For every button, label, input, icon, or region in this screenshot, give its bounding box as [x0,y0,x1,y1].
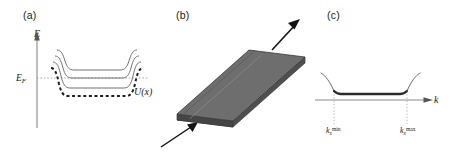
outgoing-beam-arrow [272,19,300,50]
dispersion-left-tail [321,73,334,91]
figure-container: (a) E EF U(x) (b) [0,0,453,152]
energy-axis [34,31,40,128]
dispersion-flat-bottom [334,91,407,94]
panel-c: (c) k kxmin kxmax [305,0,453,152]
band-curve-1 [57,50,137,70]
momentum-axis [315,97,433,103]
dispersion-right-tail [407,73,420,91]
panel-a: (a) E EF U(x) [0,0,160,152]
panel-a-graphic [0,0,160,152]
panel-b-graphic [160,0,305,152]
incoming-beam-arrow [161,122,198,147]
panel-b: (b) [160,0,305,152]
panel-c-graphic [305,0,453,152]
slab-top-face [177,50,305,121]
